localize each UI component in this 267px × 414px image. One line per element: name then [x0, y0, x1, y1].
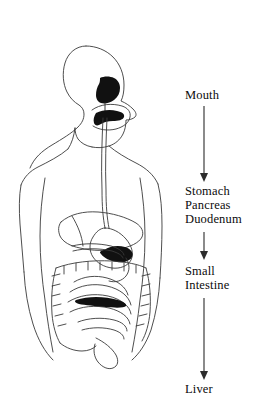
- jaw-outline: [75, 128, 92, 147]
- small-intestine-loop-lower: [94, 338, 118, 369]
- stomach-fill: [100, 246, 133, 262]
- tongue: [94, 110, 125, 125]
- large-intestine-haustra-left: [52, 274, 66, 326]
- shoulder-right-outline: [109, 146, 158, 184]
- arm-right-outline: [158, 184, 162, 278]
- flow-label-stomach-group: Stomach Pancreas Duodenum: [185, 184, 242, 227]
- neck-back-outline: [68, 128, 75, 149]
- esophagus: [102, 118, 105, 228]
- flow-label-stomach: Stomach: [185, 184, 242, 198]
- flow-label-small-intestine: Small Intestine: [185, 264, 229, 292]
- flow-label-pancreas: Pancreas: [185, 198, 242, 212]
- flow-label-liver: Liver: [185, 382, 213, 396]
- flow-label-mouth: Mouth: [185, 88, 219, 102]
- flow-label-small-intestine-line-2: Intestine: [185, 278, 229, 292]
- flow-label-mouth-line-1: Mouth: [185, 88, 219, 102]
- hip-left-outline: [24, 272, 53, 360]
- digestive-system-diagram: Mouth Stomach Pancreas Duodenum Small In…: [0, 0, 267, 414]
- small-intestine-coil-6: [82, 328, 124, 339]
- small-intestine-fill-band: [75, 297, 126, 308]
- large-intestine-haustra-top: [64, 262, 136, 274]
- flow-label-liver-line-1: Liver: [185, 382, 213, 396]
- head-outline: [30, 46, 86, 168]
- small-intestine-coil-1: [74, 276, 128, 295]
- arrow-mouth-to-stomach: [200, 106, 208, 182]
- torso-left-outline: [40, 178, 53, 352]
- hip-right-outline: [132, 278, 160, 360]
- flow-label-small-intestine-line-1: Small: [185, 264, 229, 278]
- arrow-small-intestine-to-liver: [200, 298, 208, 380]
- flow-label-duodenum: Duodenum: [185, 212, 242, 226]
- flow-arrows: [200, 106, 208, 380]
- arrow-stomach-to-small-intestine: [200, 232, 208, 260]
- esophagus-second-line: [106, 118, 109, 228]
- oral-cavity: [96, 77, 120, 104]
- cecum: [60, 343, 96, 351]
- liver-lobe-line: [72, 216, 83, 246]
- arm-left-outline: [19, 185, 24, 272]
